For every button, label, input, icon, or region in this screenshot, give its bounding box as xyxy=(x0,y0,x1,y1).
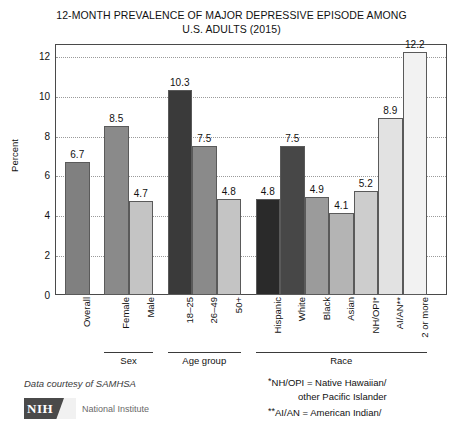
y-tick-10: 10 xyxy=(4,90,50,101)
y-axis-label: Percent xyxy=(9,126,20,186)
footnote-2-text: AI/AN = American Indian/ xyxy=(275,407,381,418)
y-tick-2: 2 xyxy=(4,250,50,261)
x-tick-label: Female xyxy=(120,297,131,329)
nih-logo: NIH National Institute xyxy=(24,398,149,419)
bar-value-label: 4.8 xyxy=(261,186,275,197)
x-tick-label: AI/AN** xyxy=(394,297,405,329)
bar-value-label: 8.9 xyxy=(383,105,397,116)
bar-value-label: 4.9 xyxy=(310,184,324,195)
bar-value-label: 12.2 xyxy=(405,39,424,50)
x-tick-label: White xyxy=(296,297,307,321)
chart-container: 12-MONTH PREVALENCE OF MAJOR DEPRESSIVE … xyxy=(0,0,463,421)
group-label: Race xyxy=(330,355,352,366)
x-tick-label: Black xyxy=(321,297,332,320)
bar xyxy=(168,90,193,295)
bar xyxy=(104,126,129,295)
bar xyxy=(378,118,403,295)
bar-value-label: 7.5 xyxy=(285,133,299,144)
x-tick-label: 2 or more xyxy=(419,297,430,338)
bar xyxy=(403,52,428,295)
nih-logo-name: National Institute xyxy=(82,404,149,414)
bar xyxy=(256,199,281,295)
group-label: Age group xyxy=(182,355,226,366)
chart-title-line-2: U.S. ADULTS (2015) xyxy=(0,22,463,36)
data-credit: Data courtesy of SAMHSA xyxy=(24,378,136,389)
bar xyxy=(280,146,305,295)
bar-value-label: 6.7 xyxy=(70,149,84,160)
x-axis-labels: OverallFemaleMale18–2526–4950+HispanicWh… xyxy=(55,297,447,347)
bar xyxy=(217,199,242,295)
y-tick-0: 0 xyxy=(4,290,50,301)
footnotes: *NH/OPI = Native Hawaiian/ other Pacific… xyxy=(268,374,463,420)
y-axis: 024681012 xyxy=(0,44,50,295)
bar xyxy=(354,191,379,295)
bar xyxy=(65,162,90,295)
group-rule xyxy=(168,352,242,353)
bar-value-label: 7.5 xyxy=(197,133,211,144)
bar xyxy=(129,201,154,295)
y-tick-12: 12 xyxy=(4,50,50,61)
group-label: Sex xyxy=(120,355,136,366)
y-tick-4: 4 xyxy=(4,210,50,221)
bar xyxy=(329,213,354,295)
group-rule xyxy=(256,352,428,353)
bar-value-label: 5.2 xyxy=(359,178,373,189)
nih-logo-swoosh-icon xyxy=(55,398,76,419)
footnote-2: **AI/AN = American Indian/ xyxy=(268,404,463,420)
footnote-1: *NH/OPI = Native Hawaiian/ xyxy=(268,374,463,390)
bar-value-label: 8.5 xyxy=(109,113,123,124)
x-tick-label: 18–25 xyxy=(184,297,195,323)
chart-title-line-1: 12-MONTH PREVALENCE OF MAJOR DEPRESSIVE … xyxy=(0,8,463,22)
x-tick-label: Overall xyxy=(81,297,92,327)
bar-value-label: 4.8 xyxy=(222,186,236,197)
x-tick-label: 26–49 xyxy=(208,297,219,323)
footnote-1-cont: other Pacific Islander xyxy=(268,390,463,404)
x-tick-label: 50+ xyxy=(233,297,244,313)
chart-title: 12-MONTH PREVALENCE OF MAJOR DEPRESSIVE … xyxy=(0,8,463,36)
x-tick-label: Male xyxy=(145,297,156,318)
bar xyxy=(305,197,330,295)
x-tick-label: Asian xyxy=(345,297,356,321)
footnote-1-text: NH/OPI = Native Hawaiian/ xyxy=(272,377,387,388)
x-tick-label: NH/OPI* xyxy=(370,297,381,333)
bar-value-label: 10.3 xyxy=(170,77,189,88)
x-tick-label: Hispanic xyxy=(272,297,283,333)
footnote-2-marker: ** xyxy=(268,406,275,416)
bars-layer: 6.78.54.710.37.54.84.87.54.94.15.28.912.… xyxy=(55,44,447,295)
bar-value-label: 4.7 xyxy=(134,188,148,199)
bar xyxy=(192,146,217,295)
bar-value-label: 4.1 xyxy=(334,200,348,211)
nih-logo-mark: NIH xyxy=(24,398,76,419)
nih-logo-text: NIH xyxy=(27,401,53,417)
group-rule xyxy=(104,352,153,353)
